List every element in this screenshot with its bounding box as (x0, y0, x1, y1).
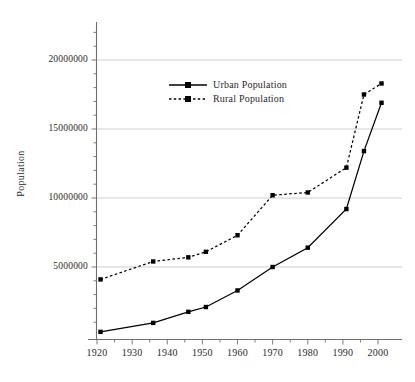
data-point-marker (306, 190, 310, 194)
data-point-marker (98, 330, 102, 334)
data-point-marker (186, 255, 190, 259)
y-axis-tick-label: 10000000 (20, 192, 88, 202)
x-axis-tick-label: 2000 (358, 347, 398, 358)
y-axis-tick-label: 5000000 (20, 261, 88, 271)
data-point-marker (235, 288, 239, 292)
x-axis-tick-label: 1970 (253, 347, 293, 358)
data-point-marker (362, 92, 366, 96)
x-axis-tick-label: 1940 (147, 347, 187, 358)
data-point-marker (151, 259, 155, 263)
y-axis-tick-label: 20000000 (20, 54, 88, 64)
data-point-marker (344, 165, 348, 169)
data-point-marker (362, 149, 366, 153)
chart-legend: Urban Population Rural Population (168, 78, 287, 106)
legend-swatch-dashed-line-icon (168, 93, 208, 105)
data-series-layer (98, 81, 383, 334)
y-axis-tick-label: 15000000 (20, 123, 88, 133)
data-point-marker (379, 81, 383, 85)
data-point-marker (379, 101, 383, 105)
legend-label-rural: Rural Population (213, 92, 284, 106)
data-point-marker (186, 310, 190, 314)
x-axis-tick-label: 1950 (182, 347, 222, 358)
legend-label-urban: Urban Population (213, 78, 287, 92)
data-point-marker (270, 193, 274, 197)
data-point-marker (151, 321, 155, 325)
legend-swatch-solid-line-icon (168, 79, 208, 91)
data-point-marker (270, 265, 274, 269)
data-point-marker (306, 245, 310, 249)
data-point-marker (98, 277, 102, 281)
x-axis-tick-label: 1920 (77, 347, 117, 358)
data-point-marker (344, 207, 348, 211)
x-axis-tick-label: 1930 (112, 347, 152, 358)
series-line-urban (101, 103, 382, 332)
data-point-marker (235, 233, 239, 237)
y-axis-ticks (92, 32, 97, 322)
x-axis-tick-label: 1990 (323, 347, 363, 358)
x-axis-tick-label: 1960 (218, 347, 258, 358)
data-point-marker (204, 305, 208, 309)
legend-item-urban: Urban Population (168, 78, 287, 92)
x-axis-tick-label: 1980 (288, 347, 328, 358)
legend-item-rural: Rural Population (168, 92, 287, 106)
x-axis-ticks (97, 340, 378, 345)
data-point-marker (204, 250, 208, 254)
series-line-rural (101, 83, 382, 279)
chart-figure: Population 50000001000000015000000200000… (0, 0, 415, 382)
